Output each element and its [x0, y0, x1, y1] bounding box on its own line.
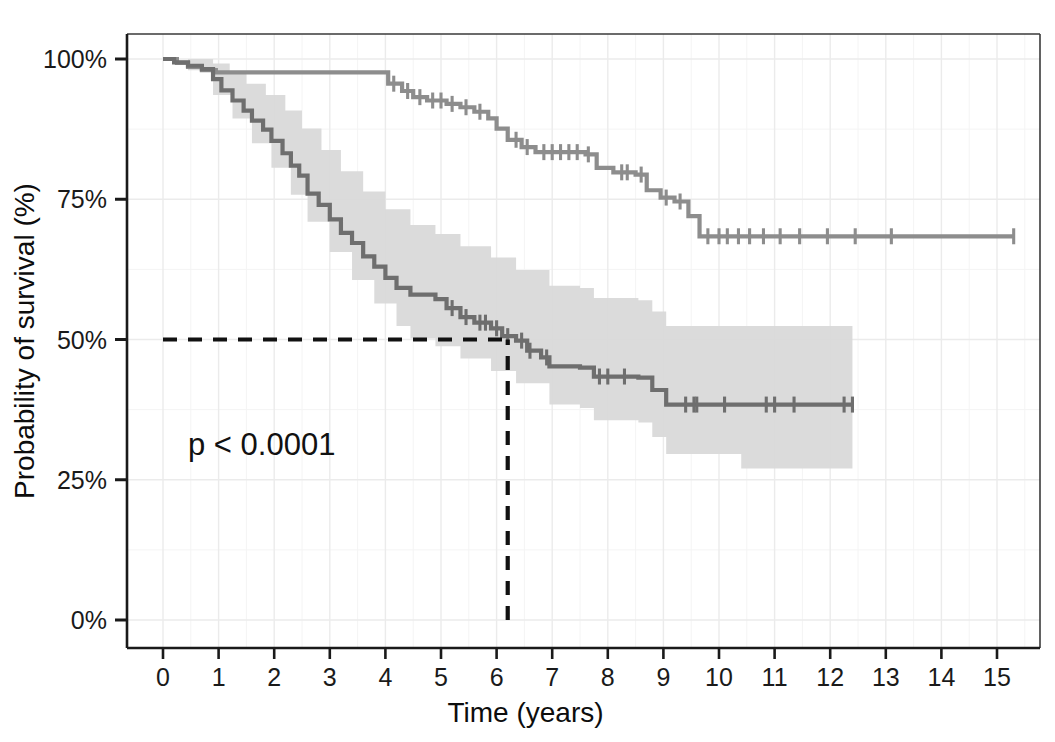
- kaplan-meier-figure: 0123456789101112131415 0%25%50%75%100% T…: [0, 0, 1055, 742]
- x-tick-label: 4: [378, 663, 392, 691]
- y-tick-label: 25%: [57, 466, 107, 494]
- survival-plot-svg: 0123456789101112131415 0%25%50%75%100% T…: [0, 0, 1055, 742]
- y-tick-label: 0%: [71, 606, 107, 634]
- x-tick-label: 9: [656, 663, 670, 691]
- x-tick-label: 10: [705, 663, 733, 691]
- x-tick-label: 11: [762, 663, 788, 691]
- x-tick-label: 12: [816, 663, 844, 691]
- x-tick-label: 13: [872, 663, 900, 691]
- x-tick-label: 8: [601, 663, 615, 691]
- x-tick-label: 0: [156, 663, 170, 691]
- x-tick-label: 15: [983, 663, 1011, 691]
- x-tick-label: 1: [212, 663, 226, 691]
- y-tick-label: 50%: [57, 326, 107, 354]
- y-tick-label: 75%: [57, 185, 107, 213]
- x-axis-title: Time (years): [447, 697, 603, 728]
- x-tick-label: 14: [927, 663, 955, 691]
- x-tick-label: 5: [434, 663, 448, 691]
- y-tick-label: 100%: [43, 45, 107, 73]
- x-tick-label: 2: [267, 663, 281, 691]
- y-axis-title: Probability of survival (%): [9, 183, 40, 499]
- x-tick-label: 7: [545, 663, 559, 691]
- p-value-annotation: p < 0.0001: [188, 427, 335, 462]
- x-tick-label: 6: [490, 663, 504, 691]
- x-tick-label: 3: [323, 663, 337, 691]
